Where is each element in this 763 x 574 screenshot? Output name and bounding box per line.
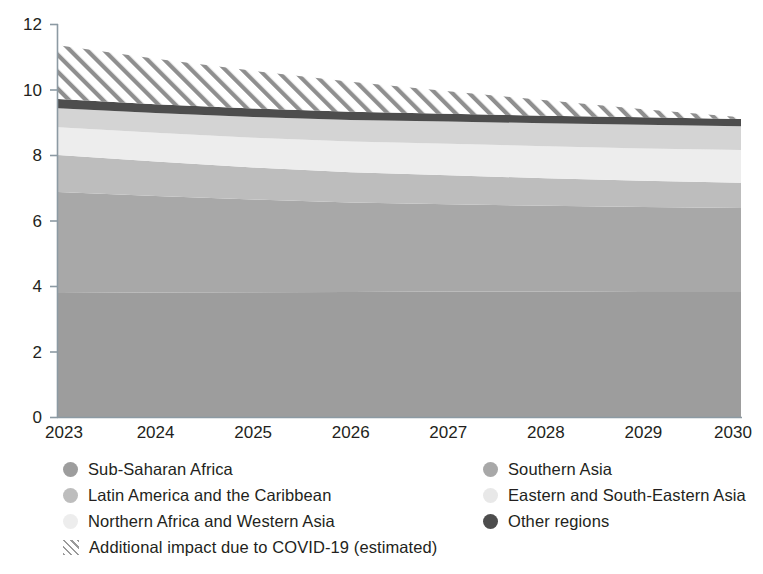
x-tick-label: 2023	[45, 423, 83, 440]
legend-label: Southern Asia	[508, 461, 612, 478]
legend-item[interactable]: Other regions	[483, 513, 609, 530]
legend-color-swatch-icon	[483, 462, 498, 477]
legend-label: Northern Africa and Western Asia	[88, 513, 335, 530]
y-tick-label: 6	[33, 212, 42, 231]
legend-item[interactable]: Northern Africa and Western Asia	[63, 513, 335, 530]
legend-color-swatch-icon	[63, 514, 78, 529]
y-tick-label: 12	[23, 15, 42, 34]
area-bands	[58, 45, 741, 417]
legend-item[interactable]: Southern Asia	[483, 461, 612, 478]
legend-label: Latin America and the Caribbean	[88, 487, 331, 504]
legend-item[interactable]: Latin America and the Caribbean	[63, 487, 331, 504]
legend-color-swatch-icon	[483, 488, 498, 503]
legend-label: Eastern and South-Eastern Asia	[508, 487, 746, 504]
y-axis-ticks: 121086420	[23, 15, 58, 427]
legend-label: Sub-Saharan Africa	[88, 461, 233, 478]
x-tick-label: 2024	[137, 423, 175, 440]
legend-label: Additional impact due to COVID-19 (estim…	[89, 539, 437, 556]
x-tick-label: 2026	[332, 423, 370, 440]
legend-color-swatch-icon	[483, 514, 498, 529]
area-band-southern-asia	[58, 192, 741, 293]
y-tick-label: 8	[33, 146, 42, 165]
y-tick-label: 0	[33, 408, 42, 427]
chart-figure: 121086420 202320242025202620272028202920…	[0, 0, 763, 574]
legend-label: Other regions	[508, 513, 609, 530]
area-band-sub-saharan-africa	[58, 292, 741, 417]
legend-hatch-swatch-icon	[63, 540, 79, 555]
plot-area: 121086420 202320242025202620272028202920…	[0, 0, 763, 440]
legend-color-swatch-icon	[63, 462, 78, 477]
chart-legend: Sub-Saharan AfricaLatin America and the …	[0, 455, 763, 574]
x-tick-label: 2029	[625, 423, 663, 440]
stacked-area-chart: 121086420 202320242025202620272028202920…	[0, 0, 763, 440]
y-tick-label: 2	[33, 343, 42, 362]
legend-color-swatch-icon	[63, 488, 78, 503]
x-tick-label: 2025	[234, 423, 272, 440]
x-axis-ticks: 20232024202520262027202820292030	[45, 423, 752, 440]
y-tick-label: 10	[23, 81, 42, 100]
legend-item[interactable]: Additional impact due to COVID-19 (estim…	[63, 539, 437, 556]
x-tick-label: 2028	[527, 423, 565, 440]
legend-item[interactable]: Sub-Saharan Africa	[63, 461, 233, 478]
legend-item[interactable]: Eastern and South-Eastern Asia	[483, 487, 746, 504]
x-tick-label: 2027	[429, 423, 467, 440]
x-tick-label: 2030	[714, 423, 752, 440]
y-tick-label: 4	[33, 277, 42, 296]
